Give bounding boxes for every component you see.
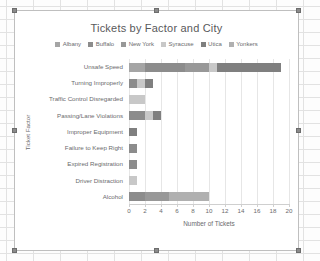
bar-segment-syracuse[interactable] [129, 176, 137, 185]
worksheet-gridline-row [0, 6, 313, 7]
x-axis-tick-label: 10 [206, 207, 213, 214]
legend-item-label: Yonkers [236, 41, 257, 47]
bar-segment-buffalo[interactable] [129, 192, 145, 201]
plot-area [129, 59, 289, 205]
x-axis-title: Number of Tickets [129, 220, 289, 227]
bar-stack[interactable] [129, 79, 289, 88]
bar-segment-new-york[interactable] [145, 192, 169, 201]
bar-segment-new-york[interactable] [185, 63, 209, 72]
legend-item-albany[interactable]: Albany [55, 41, 81, 47]
bar-segment-buffalo[interactable] [129, 111, 145, 120]
bar-stack[interactable] [129, 63, 289, 72]
resize-handle-bottom-center[interactable] [154, 248, 159, 253]
bar-segment-utica[interactable] [129, 128, 137, 137]
legend-item-label: New York [129, 41, 154, 47]
plot-wrapper: Ticket Factor Unsafe SpeedTurning Improp… [15, 57, 298, 250]
legend-item-buffalo[interactable]: Buffalo [88, 41, 114, 47]
y-axis-category-labels: Unsafe SpeedTurning ImproperlyTraffic Co… [33, 59, 126, 205]
resize-handle-top-left[interactable] [12, 8, 17, 13]
resize-handle-bottom-left[interactable] [12, 248, 17, 253]
resize-handle-top-center[interactable] [154, 8, 159, 13]
x-axis-tick-label: 20 [286, 207, 293, 214]
legend-swatch-icon [229, 42, 234, 47]
resize-handle-top-right[interactable] [296, 8, 301, 13]
bar-segment-utica[interactable] [153, 111, 161, 120]
y-axis-category-label: Improper Equipment [33, 124, 126, 140]
chart-plot-area-container: Tickets by Factor and City AlbanyBuffalo… [15, 11, 298, 250]
bar-segment-yonkers[interactable] [169, 192, 209, 201]
y-axis-category-label: Unsafe Speed [33, 59, 126, 75]
y-axis-category-label: Passing/Lane Violations [33, 108, 126, 124]
worksheet-gridline-col [303, 0, 304, 261]
legend-swatch-icon [121, 42, 126, 47]
bar-segment-buffalo[interactable] [129, 160, 137, 169]
y-axis-title-text: Ticket Factor [25, 114, 32, 150]
resize-handle-middle-left[interactable] [12, 128, 17, 133]
resize-handle-bottom-right[interactable] [296, 248, 301, 253]
bar-stack[interactable] [129, 111, 289, 120]
bar-stack[interactable] [129, 176, 289, 185]
y-axis-category-label: Turning Improperly [33, 75, 126, 91]
legend-item-label: Syracuse [169, 41, 194, 47]
legend-item-new-york[interactable]: New York [121, 41, 154, 47]
resize-handle-middle-right[interactable] [296, 128, 301, 133]
x-axis-tick-label: 6 [175, 207, 178, 214]
bar-stack[interactable] [129, 95, 289, 104]
bar-segment-syracuse[interactable] [145, 111, 153, 120]
y-axis-category-label: Traffic Control Disregarded [33, 91, 126, 107]
legend-item-utica[interactable]: Utica [201, 41, 222, 47]
legend-item-yonkers[interactable]: Yonkers [229, 41, 258, 47]
x-axis-tick-label: 0 [127, 207, 130, 214]
x-axis-tick-label: 16 [254, 207, 261, 214]
legend-item-label: Albany [63, 41, 81, 47]
y-axis-title: Ticket Factor [23, 59, 33, 205]
x-axis-tick-label: 2 [143, 207, 146, 214]
bar-stack[interactable] [129, 160, 289, 169]
legend-swatch-icon [88, 42, 93, 47]
x-axis-tick-label: 12 [222, 207, 229, 214]
bar-segment-albany[interactable] [129, 63, 145, 72]
bar-segment-buffalo[interactable] [145, 63, 185, 72]
chart-title: Tickets by Factor and City [15, 22, 298, 34]
y-axis-category-label: Failure to Keep Right [33, 140, 126, 156]
bar-stack[interactable] [129, 128, 289, 137]
bar-segment-buffalo[interactable] [129, 79, 137, 88]
x-axis-tick-labels: 02468101214161820 [129, 207, 289, 217]
x-axis-tick-label: 14 [238, 207, 245, 214]
x-axis-tick-label: 4 [159, 207, 162, 214]
legend-item-syracuse[interactable]: Syracuse [161, 41, 194, 47]
legend-item-label: Utica [208, 41, 222, 47]
legend-swatch-icon [55, 42, 60, 47]
x-axis-tick-label: 8 [191, 207, 194, 214]
y-axis-category-label: Expired Registration [33, 156, 126, 172]
bar-segment-buffalo[interactable] [129, 144, 137, 153]
legend-swatch-icon [201, 42, 206, 47]
bar-stack[interactable] [129, 192, 289, 201]
bar-segment-syracuse[interactable] [137, 79, 145, 88]
chart-object[interactable]: Tickets by Factor and City AlbanyBuffalo… [14, 10, 299, 251]
y-axis-category-label: Alcohol [33, 189, 126, 205]
legend-item-label: Buffalo [96, 41, 115, 47]
y-axis-category-label: Driver Distraction [33, 173, 126, 189]
worksheet-gridline-col [6, 0, 7, 261]
chart-legend: AlbanyBuffaloNew YorkSyracuseUticaYonker… [15, 41, 298, 47]
worksheet-gridline-row [0, 253, 313, 254]
bar-stack[interactable] [129, 144, 289, 153]
x-gridline [289, 59, 290, 205]
legend-swatch-icon [161, 42, 166, 47]
x-axis-tick-label: 18 [270, 207, 277, 214]
bar-segment-utica[interactable] [145, 79, 153, 88]
bar-segment-syracuse[interactable] [129, 95, 145, 104]
bar-segment-utica[interactable] [217, 63, 281, 72]
bar-segment-syracuse[interactable] [209, 63, 217, 72]
